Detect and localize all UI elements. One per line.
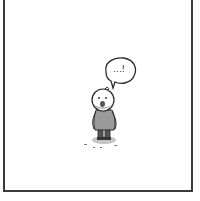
character-eye-right	[105, 97, 107, 99]
comic-scene	[0, 0, 200, 201]
character-eye-left	[98, 97, 100, 99]
character-mouth	[100, 101, 105, 107]
ground-marks	[84, 144, 117, 148]
character-body	[94, 110, 115, 130]
speech-bubble-text: …!	[113, 64, 125, 74]
